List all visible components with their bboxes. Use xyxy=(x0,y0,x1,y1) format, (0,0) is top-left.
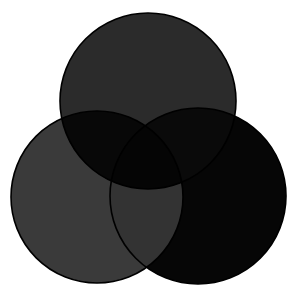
venn-diagram xyxy=(0,0,297,294)
